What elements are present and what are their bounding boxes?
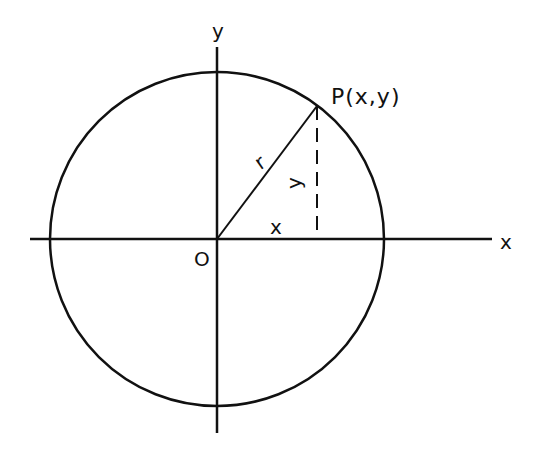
radius-label: r xyxy=(250,150,271,175)
radius-line xyxy=(217,106,317,239)
y-axis-label: y xyxy=(212,19,224,43)
point-label: P(x,y) xyxy=(331,84,400,109)
x-leg-label: x xyxy=(270,215,282,239)
y-leg-label: y xyxy=(282,177,306,189)
origin-label: O xyxy=(194,247,210,271)
x-axis-label: x xyxy=(500,230,512,254)
unit-circle-diagram: y x O P(x,y) r x y xyxy=(0,0,537,461)
